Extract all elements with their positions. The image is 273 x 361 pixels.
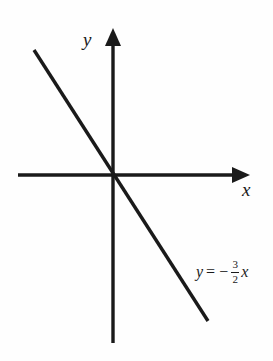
equation-fraction: 3 2 xyxy=(231,259,239,285)
graph-figure: y x y = − 3 2 x xyxy=(0,0,273,361)
fraction-denominator: 2 xyxy=(231,274,239,286)
coordinate-plot xyxy=(0,0,273,361)
x-axis-label: x xyxy=(242,180,250,199)
equation-minus-sign: − xyxy=(219,264,228,280)
y-axis-label: y xyxy=(83,30,91,49)
equation-equals-sign: = xyxy=(206,264,215,280)
fraction-numerator: 3 xyxy=(231,259,239,271)
y-axis-arrowhead xyxy=(105,28,121,46)
equation-variable: x xyxy=(241,264,248,280)
function-line xyxy=(34,50,208,321)
equation-lhs: y xyxy=(196,264,203,280)
equation-annotation: y = − 3 2 x xyxy=(196,259,248,285)
